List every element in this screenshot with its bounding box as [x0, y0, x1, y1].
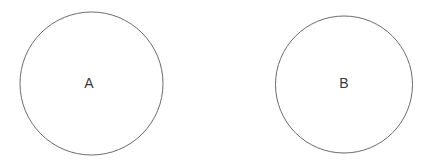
circles-diagram: A B [0, 0, 438, 168]
circle-b-label: B [339, 75, 348, 91]
circle-a-label: A [84, 75, 94, 91]
diagram-canvas: A B [0, 0, 438, 168]
